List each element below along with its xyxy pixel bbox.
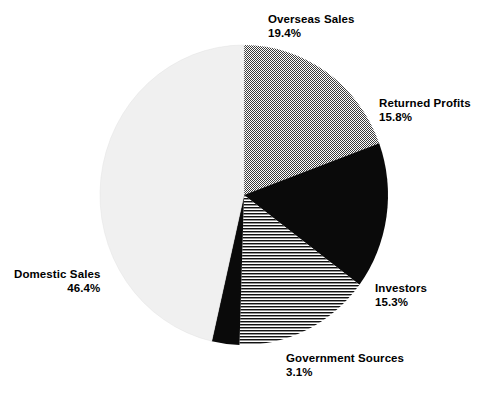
slice-label-government-sources: Government Sources 3.1% <box>286 351 404 379</box>
slice-label-overseas-sales-value: 19.4% <box>268 26 354 40</box>
slice-label-domestic-sales-value: 46.4% <box>14 281 100 295</box>
slice-label-investors-value: 15.3% <box>375 295 427 309</box>
pie-chart-graphic <box>0 0 478 396</box>
slice-label-investors: Investors 15.3% <box>375 281 427 309</box>
slice-label-returned-profits-value: 15.8% <box>379 110 471 124</box>
slice-label-domestic-sales: Domestic Sales 46.4% <box>14 267 100 295</box>
slice-label-domestic-sales-name: Domestic Sales <box>14 268 100 280</box>
slice-label-returned-profits: Returned Profits 15.8% <box>379 96 471 124</box>
slice-label-overseas-sales-name: Overseas Sales <box>268 13 354 25</box>
slice-label-overseas-sales: Overseas Sales 19.4% <box>268 12 354 40</box>
slice-label-government-sources-value: 3.1% <box>286 365 404 379</box>
slice-label-returned-profits-name: Returned Profits <box>379 97 471 109</box>
pie-slice-group <box>100 45 388 345</box>
slice-label-investors-name: Investors <box>375 282 427 294</box>
pie-chart: Overseas Sales 19.4% Returned Profits 15… <box>0 0 478 396</box>
slice-label-government-sources-name: Government Sources <box>286 352 404 364</box>
